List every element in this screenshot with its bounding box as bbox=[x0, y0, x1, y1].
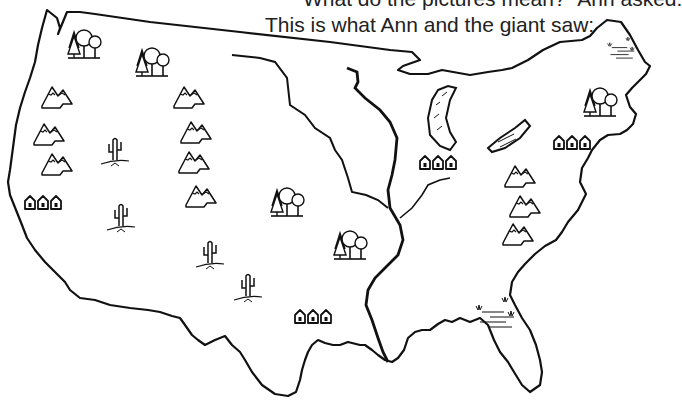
city-symbol bbox=[295, 310, 331, 323]
city-symbol bbox=[420, 156, 456, 169]
us-outline bbox=[8, 10, 650, 396]
city-symbol bbox=[554, 136, 590, 149]
city-symbol bbox=[25, 196, 61, 209]
